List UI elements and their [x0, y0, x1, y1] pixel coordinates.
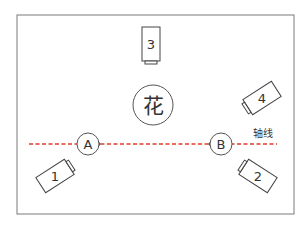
axis-label: 轴线: [253, 127, 273, 139]
position-a-label: A: [84, 137, 93, 152]
camera-2-label: 2: [254, 169, 262, 184]
camera-3-label: 3: [147, 37, 155, 52]
position-b-label: B: [217, 137, 226, 152]
camera-axis-diagram: 轴线 花 A B 3 4 1 2: [0, 0, 305, 226]
subject-flower: 花: [133, 85, 173, 125]
camera-1-label: 1: [51, 169, 59, 184]
camera-4-label: 4: [258, 91, 266, 106]
subject-label: 花: [143, 94, 164, 118]
camera-3: 3: [142, 27, 160, 64]
